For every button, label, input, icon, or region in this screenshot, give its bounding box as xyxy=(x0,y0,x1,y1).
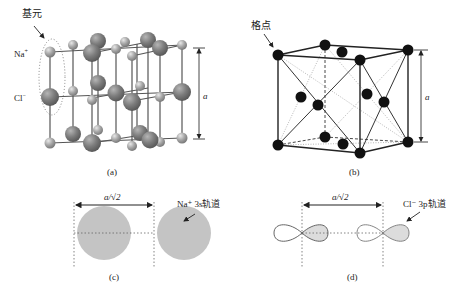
na-atom xyxy=(177,133,188,144)
cl-atom xyxy=(108,85,125,102)
basis-label: 基元 xyxy=(22,9,42,19)
na-atom xyxy=(120,37,130,47)
cl-atom xyxy=(65,126,81,142)
na-ion-label: Na+ xyxy=(14,48,28,59)
na-atom xyxy=(93,125,103,135)
na-label: Na xyxy=(14,49,25,59)
s-orbital-right xyxy=(157,206,211,260)
cl-charge: − xyxy=(23,92,26,98)
dimension-b-label: a xyxy=(425,93,430,102)
cl-atom xyxy=(123,93,141,111)
na-atom xyxy=(111,44,121,54)
distance-label-c: a/√2 xyxy=(104,193,120,202)
na-atom xyxy=(177,40,187,50)
caption-c: (c) xyxy=(109,273,119,282)
basis-arrow xyxy=(34,26,44,38)
na-atom xyxy=(127,51,137,61)
distance-label-d: a/√2 xyxy=(332,193,348,202)
panel-b-lattice xyxy=(264,34,428,159)
na-atom xyxy=(68,86,78,96)
na-atom xyxy=(127,141,137,151)
cl-3p-orbital-label: Cl⁻ 3p轨道 xyxy=(403,200,446,209)
cl-atom xyxy=(83,44,101,62)
na-atom xyxy=(45,47,56,58)
na-atom xyxy=(155,92,165,102)
na-3s-orbital-label: Na⁺ 3s轨道 xyxy=(177,200,221,209)
panel-d-orbitals xyxy=(274,202,420,268)
cl-atom xyxy=(90,75,106,91)
na-atom xyxy=(68,40,78,50)
cl-label: Cl xyxy=(14,93,23,103)
na-atom xyxy=(87,95,97,105)
na-atom xyxy=(135,81,145,91)
na-atom xyxy=(45,138,56,149)
caption-b: (b) xyxy=(349,168,360,177)
panel-c-orbitals xyxy=(74,202,211,268)
figure-canvas xyxy=(0,0,458,294)
panel-a-crystal xyxy=(34,26,205,152)
cl-ion-label: Cl− xyxy=(14,92,26,103)
caption-d: (d) xyxy=(347,273,358,282)
cl-atom xyxy=(142,132,159,149)
na-charge: + xyxy=(25,48,28,54)
cl-atom xyxy=(83,134,101,152)
lattice-point-label: 格点 xyxy=(251,21,271,31)
cl-atom xyxy=(152,40,168,56)
dimension-a-label: a xyxy=(203,92,208,101)
orbital-arrow-d xyxy=(407,212,420,221)
caption-a: (a) xyxy=(107,168,117,177)
cl-atom xyxy=(173,83,191,101)
na-atom xyxy=(111,133,121,143)
cl-atom xyxy=(41,88,59,106)
lattice-point-arrow xyxy=(264,34,273,47)
